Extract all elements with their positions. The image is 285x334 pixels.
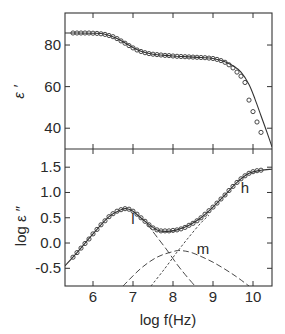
x-tick-label: 6 [89,288,97,305]
top-panel-permittivity [65,31,272,147]
y-tick-label: 1.5 [40,158,61,175]
x-axis-label: log f(Hz) [140,311,197,328]
dielectric-spectrum-figure: 406080-0.50.00.51.01.5678910lmh log f(Hz… [0,0,285,334]
x-tick-label: 8 [169,288,177,305]
curve-label-h: h [241,179,249,196]
fit-curve [65,33,272,147]
curve-label-m: m [197,240,210,257]
data-point-marker [255,120,259,124]
y-tick-label: 1.0 [40,183,61,200]
component-curve [147,224,195,286]
top-y-axis-label: ε ′ [10,84,27,99]
y-tick-label: 80 [44,36,61,53]
y-tick-label: -0.5 [35,259,61,276]
component-curve [123,251,249,286]
data-point-marker [235,70,239,74]
y-tick-label: 0.0 [40,234,61,251]
data-point-marker [259,130,263,134]
data-point-marker [243,80,247,84]
x-tick-label: 10 [245,288,262,305]
tick-labels: 406080-0.50.00.51.01.5678910lmh [35,36,261,305]
y-tick-label: 60 [44,78,61,95]
y-tick-label: 40 [44,119,61,136]
x-tick-label: 7 [129,288,137,305]
y-tick-label: 0.5 [40,209,61,226]
data-point-marker [251,110,255,114]
x-tick-label: 9 [209,288,217,305]
curve-label-l: l [131,210,134,227]
data-point-marker [247,98,251,102]
bottom-y-axis-label: log ε ″ [12,205,29,246]
